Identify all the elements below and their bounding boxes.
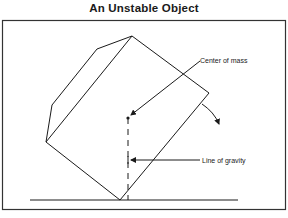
line-of-gravity-label: Line of gravity — [202, 157, 246, 165]
center-of-mass-label: Center of mass — [200, 57, 248, 64]
diagram-frame — [3, 21, 286, 210]
center-of-mass-leader — [131, 61, 200, 115]
diagram-canvas: Center of mass Line of gravity — [0, 0, 288, 218]
tipping-direction-arrow-icon — [202, 104, 219, 124]
